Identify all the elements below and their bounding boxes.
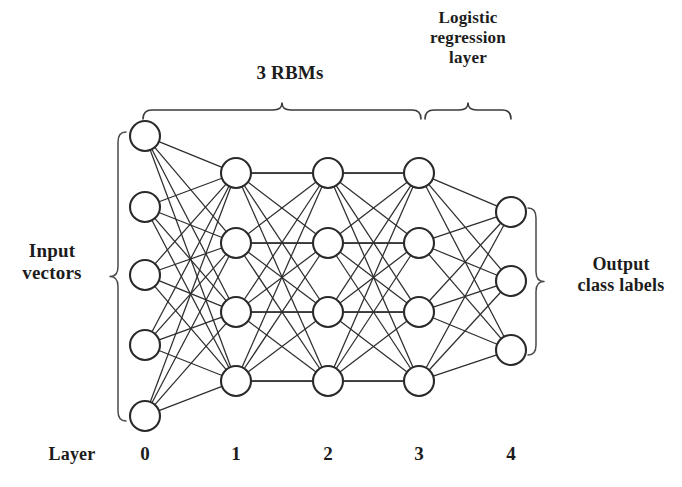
node-input-layer-4 [130,401,160,431]
node-hidden-layer-1-1 [221,228,251,258]
node-output-layer-2 [496,335,526,365]
layer-tick-2: 2 [313,443,343,465]
node-hidden-layer-1-0 [221,158,251,188]
edge-l3n3-l4n2 [433,355,497,376]
edge-l3n0-l4n0 [433,179,497,206]
node-input-layer-0 [130,121,160,151]
node-hidden-layer-1-2 [221,297,251,327]
node-hidden-layer-2-2 [313,297,343,327]
node-hidden-layer-3-3 [404,366,434,396]
logreg-brace [425,103,511,119]
node-hidden-layer-2-3 [313,366,343,396]
node-hidden-layer-2-1 [313,228,343,258]
node-hidden-layer-2-0 [313,158,343,188]
layer-tick-3: 3 [404,443,434,465]
output-class-labels-label: Output class labels [562,254,680,296]
input-vectors-label: Input vectors [6,240,98,285]
rbms-label: 3 RBMs [228,62,352,84]
node-input-layer-3 [130,330,160,360]
output-brace [528,208,544,355]
edge-l3n3-l4n0 [426,225,504,368]
node-input-layer-2 [130,260,160,290]
layer-axis-label: Layer [32,444,112,465]
nodes-group [130,121,526,431]
edge-l0n4-l1n2 [155,323,226,404]
node-hidden-layer-1-3 [221,366,251,396]
node-hidden-layer-3-1 [404,228,434,258]
rbms-brace [143,103,421,119]
edge-l3n2-l4n0 [429,223,501,301]
layer-tick-4: 4 [496,443,526,465]
logistic-regression-label: Logistic regression layer [409,8,527,68]
node-hidden-layer-3-2 [404,297,434,327]
edge-l0n3-l1n0 [152,186,229,331]
edge-l3n3-l4n1 [429,292,501,370]
figure-canvas: 3 RBMs Logistic regression layer Input v… [0,0,682,487]
layer-tick-0: 0 [130,443,160,465]
horizontal-edges-group [251,173,404,381]
edge-l0n2-l1n0 [155,184,226,264]
input-brace [110,132,126,421]
node-output-layer-0 [496,197,526,227]
node-hidden-layer-3-0 [404,158,434,188]
node-input-layer-1 [130,192,160,222]
node-output-layer-1 [496,266,526,296]
layer-tick-1: 1 [221,443,251,465]
